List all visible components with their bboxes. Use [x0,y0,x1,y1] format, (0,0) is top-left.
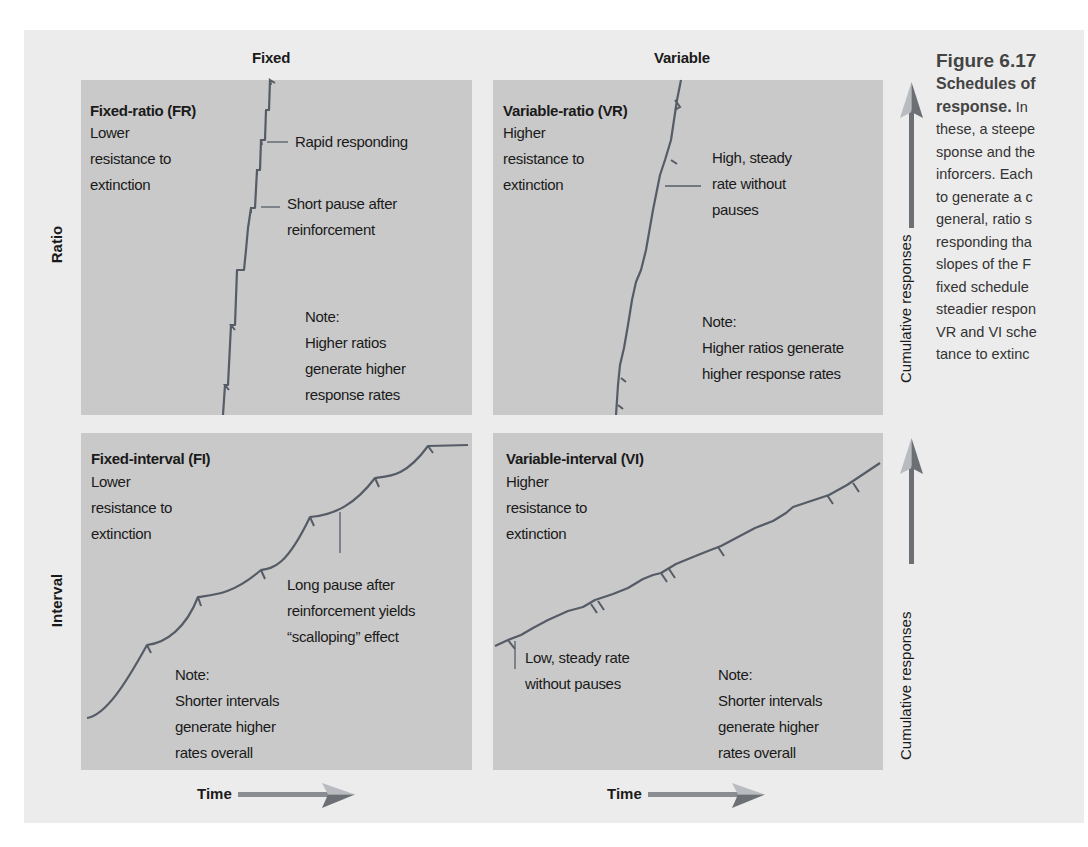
caption-line: general, ratio s [936,211,1032,227]
fi-description: Lower resistance to extinction [91,469,172,547]
fi-annotation-scalloping: Long pause after reinforcement yields “s… [287,572,415,650]
caption-line: slopes of the F [936,256,1031,272]
panel-fixed-interval: Fixed-interval (FI) Lower resistance to … [81,433,472,770]
fi-title: Fixed-interval (FI) [91,450,210,467]
caption-line: fixed schedule [936,279,1029,295]
vr-title: Variable-ratio (VR) [503,102,627,119]
vi-description: Higher resistance to extinction [506,469,587,547]
panel-fixed-ratio: Fixed-ratio (FR) Lower resistance to ext… [81,80,472,415]
fr-annotation-short-pause: Short pause after reinforcement [287,191,397,243]
column-heading-variable: Variable [654,49,710,66]
row-heading-ratio: Ratio [48,226,65,264]
vr-description: Higher resistance to extinction [503,120,584,198]
vr-annotation-high-steady: High, steady rate without pauses [712,145,792,223]
caption-line: inforcers. Each [936,166,1033,182]
caption-line: responding tha [936,234,1032,250]
time-arrow-right-icon-variable [648,780,768,810]
fr-annotation-rapid: Rapid responding [295,129,408,155]
row-heading-interval: Interval [48,574,65,627]
y-axis-label-top: Cumulative responses [897,235,914,383]
caption-line: to generate a c [936,189,1033,205]
caption-line: VR and VI sche [936,324,1037,340]
caption-line: steadier respon [936,301,1036,317]
x-axis-label-fixed: Time [197,785,232,802]
fr-note: Note: Higher ratios generate higher resp… [305,304,406,408]
y-axis-label-bottom: Cumulative responses [897,612,914,760]
vi-title: Variable-interval (VI) [506,450,644,467]
caption-title-line-1: Schedules of [936,75,1036,92]
fi-note: Note: Shorter intervals generate higher … [175,662,279,766]
panel-variable-interval: Variable-interval (VI) Higher resistance… [493,433,883,770]
vi-note: Note: Shorter intervals generate higher … [718,662,822,766]
caption-line: these, a steepe [936,121,1035,137]
time-arrow-right-icon-fixed [238,780,358,810]
fr-description: Lower resistance to extinction [90,120,171,198]
x-axis-label-variable: Time [607,785,642,802]
cumulative-arrow-up-icon-bottom [897,438,927,568]
fr-title: Fixed-ratio (FR) [90,102,196,119]
panel-variable-ratio: Variable-ratio (VR) Higher resistance to… [493,80,883,415]
vr-note: Note: Higher ratios generate higher resp… [702,309,844,387]
caption-line: In [1016,99,1028,115]
figure-number: Figure 6.17 [936,49,1088,73]
column-heading-fixed: Fixed [252,49,290,66]
caption-line: sponse and the [936,144,1035,160]
cumulative-arrow-up-icon-top [897,82,927,232]
vi-annotation-low-steady: Low, steady rate without pauses [525,645,629,697]
caption-title-line-2: response. [936,98,1012,115]
figure-caption: Figure 6.17 Schedules of response. In th… [936,49,1088,366]
caption-line: tance to extinc [936,346,1030,362]
